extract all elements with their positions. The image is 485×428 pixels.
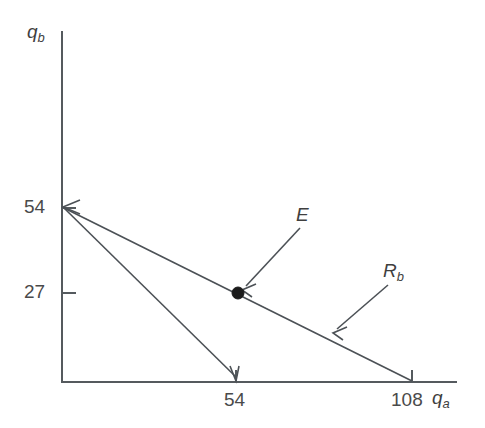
equilibrium-point-dot <box>232 287 244 299</box>
reaction-function-label-text: R <box>383 260 397 281</box>
x-axis-title-subscript: a <box>443 396 450 411</box>
steep-line <box>64 208 236 377</box>
x-tick-label-54: 54 <box>224 390 245 409</box>
x-axis-title-text: q <box>432 387 443 408</box>
x-axis-title: qa <box>432 388 450 407</box>
reaction-function-label: Rb <box>383 261 404 280</box>
rb-annotation-leader <box>337 285 388 329</box>
equilibrium-label: E <box>296 205 309 224</box>
e-annotation-leader <box>246 228 300 286</box>
y-axis-title: qb <box>27 22 45 41</box>
reaction-function-label-subscript: b <box>397 269 404 284</box>
y-axis-title-text: q <box>27 21 38 42</box>
y-tick-label-27: 27 <box>24 282 45 301</box>
x-tick-label-108: 108 <box>391 390 423 409</box>
rb-annotation-arrowhead <box>333 327 347 340</box>
reaction-function-figure: qb qa 54 27 54 108 E Rb <box>0 0 485 428</box>
plot-canvas <box>0 0 485 428</box>
y-tick-label-54: 54 <box>24 197 45 216</box>
y-axis-title-subscript: b <box>38 30 45 45</box>
